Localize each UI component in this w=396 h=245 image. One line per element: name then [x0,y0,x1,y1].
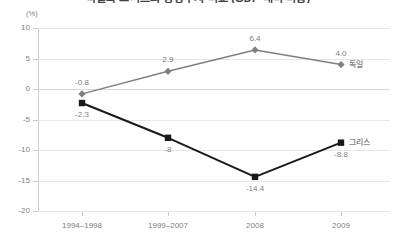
data-point-label: 4.0 [335,49,346,58]
series-plot [0,0,396,245]
data-point-label: -2.3 [75,110,89,119]
series-name-germany: 독일 [349,60,363,69]
data-point-marker [165,135,171,141]
series-line [82,103,341,177]
data-point-label: -8 [164,145,171,154]
data-point-marker [164,68,171,75]
series-name-greece: 그리스 [349,138,370,147]
data-point-marker [252,174,258,180]
data-point-marker [338,139,344,145]
data-point-label: 2.9 [162,55,173,64]
data-point-marker [337,61,344,68]
data-point-label: 6.4 [249,34,260,43]
data-point-marker [79,100,85,106]
data-point-marker [78,90,85,97]
data-point-label: -14.4 [246,184,264,193]
data-point-label: -8.8 [334,150,348,159]
line-chart: 독일과 그리스의 경상수지 비교 (GDP 대비 비중) (%) 1050-5-… [0,0,396,245]
series-line [82,50,341,94]
data-point-marker [251,46,258,53]
data-point-label: -0.8 [75,78,89,87]
